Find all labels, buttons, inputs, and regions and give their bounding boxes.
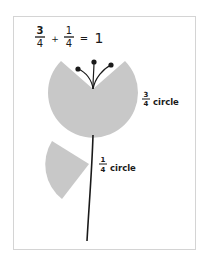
three-quarter-label: 3 4 circle [142,91,179,108]
label-text: circle [110,163,136,173]
label-numerator: 3 [144,91,149,99]
stem [87,135,93,241]
stamen-dot [108,62,113,67]
quarter-label: 1 4 circle [99,156,136,174]
three-quarter-circle [48,61,138,138]
plus-sign: + [51,34,59,44]
label-denominator: 4 [101,166,106,174]
stamen-dot [91,59,96,64]
stamen-dot [75,66,80,71]
equation: 3 4 + 1 4 = 1 [35,25,103,49]
label-text: circle [153,97,179,107]
equals-sign: = [80,33,88,44]
term2-numerator: 1 [66,25,72,36]
quarter-circle-leaf [45,141,89,199]
label-denominator: 4 [144,100,149,108]
term2-denominator: 4 [66,38,72,49]
term1-denominator: 4 [37,38,43,49]
result: 1 [95,30,104,46]
label-numerator: 1 [101,156,106,164]
term1-numerator: 3 [37,25,44,36]
flower-diagram: 3 4 + 1 4 = 1 3 4 circle 1 4 circle [0,0,207,261]
